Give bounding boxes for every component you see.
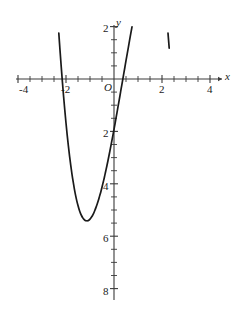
x-axis-label: x (225, 71, 230, 82)
y-tick-label-minus2: 2 (103, 128, 109, 139)
axes-group (16, 25, 222, 300)
plot-canvas (0, 0, 239, 314)
origin-label: O (104, 82, 112, 93)
y-axis-label: y (116, 17, 121, 28)
y-tick-label-minus6: 6 (103, 233, 109, 244)
y-tick-label-minus8: 8 (103, 286, 109, 297)
y-tick-label-2: 2 (103, 23, 109, 34)
y-tick-label-minus4: 4 (103, 181, 109, 192)
x-tick-label-4: 4 (207, 84, 213, 95)
x-tick-label-minus4: -4 (19, 84, 28, 95)
x-axis-arrow (218, 77, 222, 81)
x-tick-label-minus2: -2 (61, 84, 70, 95)
x-tick-label-2: 2 (159, 84, 165, 95)
y-axis-ticks (110, 27, 118, 289)
graph-figure: -4 -2 2 4 2 2 4 6 8 x y O (0, 0, 239, 314)
